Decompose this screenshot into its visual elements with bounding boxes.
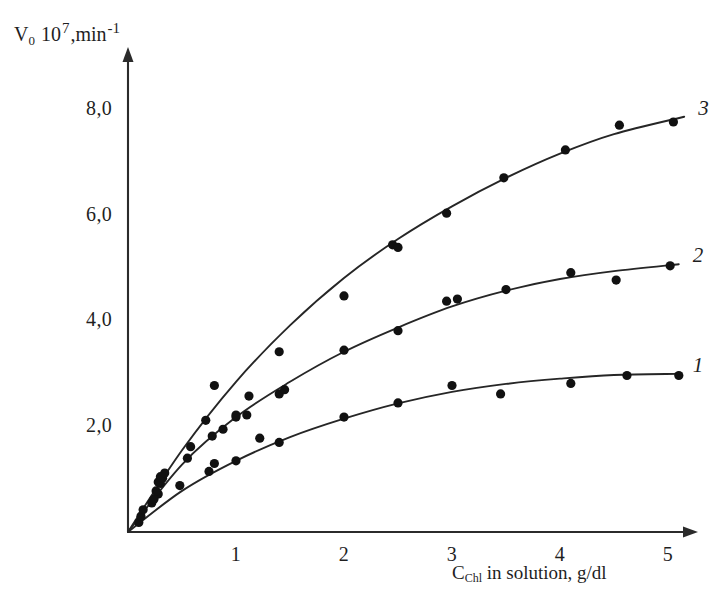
y-tick-label: 6,0	[38, 203, 112, 226]
data-point	[280, 385, 289, 394]
data-point	[615, 121, 624, 130]
plot-area	[0, 0, 710, 606]
data-point	[442, 297, 451, 306]
data-point	[393, 326, 402, 335]
data-point	[275, 438, 284, 447]
x-axis-arrow-icon	[683, 527, 698, 538]
figure-chart: V0 107,min-1 CChl in solution, g/dl 2,04…	[0, 0, 710, 606]
curve-label-1: 1	[693, 353, 704, 378]
data-point	[242, 410, 251, 419]
data-point	[566, 379, 575, 388]
data-point	[139, 505, 148, 514]
data-point	[339, 346, 348, 355]
data-point	[666, 261, 675, 270]
data-point	[149, 495, 158, 504]
x-tick-label: 5	[643, 543, 693, 566]
curve-label-2: 2	[693, 243, 704, 268]
data-point	[231, 456, 240, 465]
data-point	[393, 398, 402, 407]
axis-group	[123, 47, 699, 538]
data-point	[175, 481, 184, 490]
x-tick-label: 4	[535, 543, 585, 566]
y-axis-arrow-icon	[123, 47, 134, 62]
data-point	[255, 434, 264, 443]
data-point	[442, 209, 451, 218]
data-point	[151, 486, 160, 495]
y-tick-label: 8,0	[38, 97, 112, 120]
data-point	[218, 425, 227, 434]
fit-curve-1	[128, 374, 679, 532]
data-point	[339, 413, 348, 422]
y-tick-label: 4,0	[38, 308, 112, 331]
data-point	[561, 145, 570, 154]
data-point	[210, 459, 219, 468]
data-point	[183, 454, 192, 463]
data-point	[447, 381, 456, 390]
data-point	[339, 291, 348, 300]
data-point	[674, 371, 683, 380]
data-point	[501, 285, 510, 294]
data-point	[201, 416, 210, 425]
data-point	[275, 347, 284, 356]
data-point	[231, 410, 240, 419]
data-point	[496, 389, 505, 398]
data-point	[204, 467, 213, 476]
data-point	[669, 117, 678, 126]
data-point	[453, 294, 462, 303]
data-point	[160, 468, 169, 477]
data-point	[566, 268, 575, 277]
x-tick-label: 3	[427, 543, 477, 566]
data-point	[622, 371, 631, 380]
data-point	[499, 173, 508, 182]
y-tick-label: 2,0	[38, 414, 112, 437]
data-point	[244, 391, 253, 400]
data-point	[612, 275, 621, 284]
x-tick-label: 2	[319, 543, 369, 566]
x-tick-label: 1	[211, 543, 261, 566]
data-point	[393, 243, 402, 252]
curve-label-3: 3	[698, 96, 709, 121]
data-point	[208, 431, 217, 440]
data-point	[210, 381, 219, 390]
data-point	[186, 442, 195, 451]
fit-curve-2	[128, 264, 679, 532]
